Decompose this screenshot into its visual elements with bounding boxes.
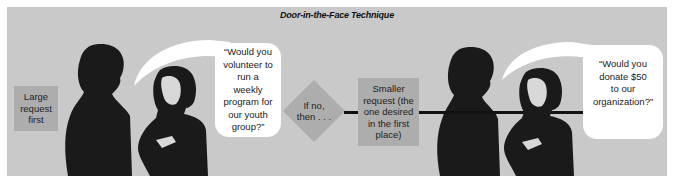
- decision-line: If no,: [297, 100, 331, 112]
- speech-bubble-donate: “Would you donate $50 to our organizatio…: [583, 45, 663, 139]
- diagram-title: Door-in-the-Face Technique: [0, 10, 674, 20]
- connector-line: [344, 111, 358, 114]
- bubble-line: “Would you: [593, 58, 653, 71]
- step-line: place): [363, 129, 414, 141]
- bubble-line: our youth: [223, 109, 273, 122]
- woman-right-icon: [500, 66, 576, 176]
- bubble-line: group?”: [223, 121, 273, 134]
- step-line: request: [20, 103, 52, 115]
- man-silhouette-left-icon: [60, 42, 140, 176]
- bubble-line: donate $50: [593, 71, 653, 84]
- step-line: in the first: [363, 118, 414, 130]
- speech-bubble-volunteer: “Would you volunteer to run a weekly pro…: [215, 43, 281, 137]
- decision-line: then . . .: [297, 111, 331, 123]
- step-large-request: Large request first: [14, 86, 58, 131]
- decision-diamond: If no, then . . .: [283, 80, 345, 142]
- bubble-line: “Would you: [223, 46, 273, 59]
- step-line: request (the: [363, 95, 414, 107]
- step-line: Smaller: [363, 83, 414, 95]
- bubble-line: organization?”: [593, 96, 653, 109]
- bubble-line: to our: [593, 83, 653, 96]
- bubble-line: program for: [223, 96, 273, 109]
- step-line: one desired: [363, 106, 414, 118]
- step-line: Large: [20, 91, 52, 103]
- step-line: first: [20, 114, 52, 126]
- bubble-line: weekly: [223, 84, 273, 97]
- bubble-line: volunteer to: [223, 59, 273, 72]
- step-smaller-request: Smaller request (the one desired in the …: [358, 78, 419, 146]
- bubble-line: run a: [223, 71, 273, 84]
